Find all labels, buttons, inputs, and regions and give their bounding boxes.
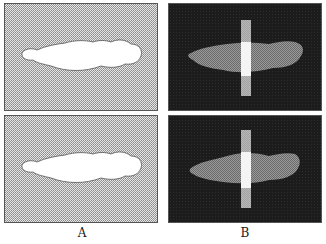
dark-scan-image xyxy=(169,116,321,222)
panel-b-top xyxy=(168,3,322,111)
silhouette-image xyxy=(5,116,157,222)
label-b: B xyxy=(235,226,255,240)
panel-b-bottom xyxy=(168,115,322,223)
dark-scan-image xyxy=(169,4,321,110)
label-a: A xyxy=(72,226,92,240)
panel-a-top xyxy=(4,3,158,111)
panel-a-bottom xyxy=(4,115,158,223)
silhouette-image xyxy=(5,4,157,110)
